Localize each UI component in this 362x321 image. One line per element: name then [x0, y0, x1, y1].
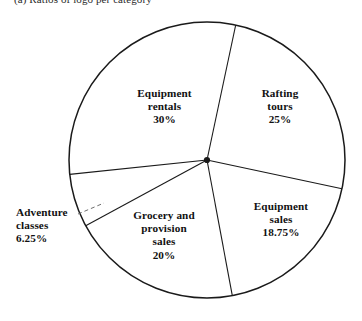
slice-value-grocery: 20%: [118, 249, 210, 262]
pie-center-dot: [204, 157, 210, 163]
slice-label-line: classes: [16, 219, 86, 232]
slice-label-line: Adventure: [16, 206, 86, 219]
slice-label-line: provision: [118, 222, 210, 235]
slice-label-equipment-rentals: Equipment rentals 30%: [112, 87, 217, 127]
slice-value-rafting-tours: 25%: [241, 113, 319, 126]
slice-label-equipment-sales: Equipment sales 18.75%: [232, 200, 330, 240]
slice-value-equipment-rentals: 30%: [112, 113, 217, 126]
slice-label-line: Equipment: [112, 87, 217, 100]
slice-value-equipment-sales: 18.75%: [232, 226, 330, 239]
slice-label-rafting-tours: Rafting tours 25%: [241, 87, 319, 127]
slice-label-adventure-classes: Adventure classes 6.25%: [16, 206, 86, 246]
slice-label-line: sales: [118, 235, 210, 248]
slice-label-line: rentals: [112, 100, 217, 113]
pie-chart-figure: (a) Ratios of logo per category Equipmen…: [0, 0, 362, 321]
slice-label-grocery-and-provision-sales: Grocery and provision sales 20%: [118, 209, 210, 262]
slice-label-line: Grocery and: [118, 209, 210, 222]
slice-value-adventure: 6.25%: [16, 232, 86, 245]
slice-label-line: Equipment: [232, 200, 330, 213]
slice-label-line: tours: [241, 100, 319, 113]
pie-chart-svg: [0, 0, 362, 321]
slice-label-line: Rafting: [241, 87, 319, 100]
slice-label-line: sales: [232, 213, 330, 226]
